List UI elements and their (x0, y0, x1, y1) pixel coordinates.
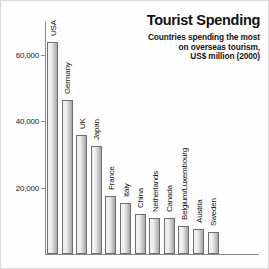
bar[interactable] (120, 203, 131, 254)
y-tick-mark (41, 55, 45, 56)
bar[interactable] (164, 218, 175, 254)
bar-group[interactable]: Netherlands (149, 22, 160, 254)
bar-group[interactable]: France (105, 22, 116, 254)
bar-category-label: Germany (63, 62, 72, 94)
bar-category-label: France (106, 166, 115, 190)
bar[interactable] (76, 135, 87, 254)
bar-series: USAGermanyUKJapanFranceItalyChinaNetherl… (47, 22, 263, 254)
plot-area: 20,00040,00060,000 USAGermanyUKJapanFran… (45, 21, 263, 255)
bar-category-label: UK (77, 118, 86, 129)
chart-page: Tourist Spending Countries spending the … (0, 0, 269, 269)
bar[interactable] (91, 146, 102, 254)
y-tick-mark (41, 121, 45, 122)
bar[interactable] (135, 214, 146, 254)
y-tick-label: 40,000 (16, 117, 39, 126)
bar[interactable] (105, 196, 116, 254)
bar[interactable] (178, 226, 189, 254)
y-tick-mark (41, 188, 45, 189)
bar-category-label: Austria (194, 200, 203, 224)
bar-group[interactable]: UK (76, 22, 87, 254)
y-axis-line (45, 21, 46, 254)
bar-group[interactable]: Japan (91, 22, 102, 254)
x-axis-line (45, 254, 259, 255)
bar-group[interactable]: China (135, 22, 146, 254)
bar-category-label: Belgium/Luxembourg (179, 148, 188, 220)
bar-category-label: Canada (165, 185, 174, 212)
bar-category-label: Italy (121, 183, 130, 197)
bar-category-label: Sweden (209, 199, 218, 227)
bar-category-label: Japan (92, 119, 101, 140)
bar-group[interactable]: Austria (193, 22, 204, 254)
bar-category-label: Netherlands (150, 171, 159, 212)
bar[interactable] (193, 229, 204, 254)
bar[interactable] (47, 42, 58, 254)
y-tick-label: 60,000 (16, 51, 39, 60)
bar[interactable] (62, 100, 73, 254)
bar[interactable] (208, 232, 219, 254)
bar-group[interactable]: Sweden (208, 22, 219, 254)
bar-group[interactable]: Belgium/Luxembourg (178, 22, 189, 254)
bar-category-label: China (136, 188, 145, 208)
bar-group[interactable]: Italy (120, 22, 131, 254)
bar-group[interactable]: Germany (62, 22, 73, 254)
bar[interactable] (149, 218, 160, 254)
y-axis-tick-labels: 20,00040,00060,000 (3, 21, 39, 254)
y-tick-label: 20,000 (16, 183, 39, 192)
bar-group[interactable]: USA (47, 22, 58, 254)
bar-category-label: USA (48, 20, 57, 36)
bar-group[interactable]: Canada (164, 22, 175, 254)
